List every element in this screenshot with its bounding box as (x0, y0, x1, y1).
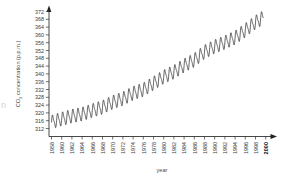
x-axis-title: year (157, 167, 168, 173)
y-tick-label: 332 (35, 87, 44, 93)
y-tick-label: 360 (35, 32, 44, 38)
y-tick-label: 340 (35, 71, 44, 77)
x-tick-label: 1966 (90, 142, 96, 154)
y-tick-label: 316 (35, 118, 44, 124)
y-tick-label: 344 (35, 63, 44, 69)
edge-text-artifact: n (1, 100, 6, 110)
x-tick-label: 1958 (49, 142, 55, 154)
y-tick-label: 324 (35, 102, 44, 108)
y-tick-label: 352 (35, 48, 44, 54)
chart-figure: n (0, 0, 284, 177)
y-tick-label: 312 (35, 126, 44, 132)
x-tick-label: 1998 (253, 142, 259, 154)
x-tick-label: 1974 (130, 142, 136, 154)
x-tick-label: 1968 (100, 142, 106, 154)
y-tick-label: 364 (35, 24, 44, 30)
x-tick-label: 1960 (59, 142, 65, 154)
y-tick-label: 328 (35, 94, 44, 100)
x-tick-label: 1980 (161, 142, 167, 154)
x-tick-label: 1970 (110, 142, 116, 154)
x-tick-label: 1978 (151, 142, 157, 154)
x-tick-label: 1976 (141, 142, 147, 154)
x-tick-label: 1986 (192, 142, 198, 154)
y-axis-title-rest: concentration (p.p.m.) (15, 41, 21, 97)
y-tick-label: 320 (35, 110, 44, 116)
y-tick-label: 372 (35, 9, 44, 15)
y-tick-label: 356 (35, 40, 44, 46)
x-tick-label-2000: 2000 (263, 142, 269, 154)
x-tick-label: 1992 (222, 142, 228, 154)
x-tick-label: 1990 (212, 142, 218, 154)
y-axis-tick-labels: 312 316 320 324 328 332 336 340 344 348 … (35, 9, 44, 132)
x-tick-label: 1982 (171, 142, 177, 154)
x-tick-label: 1964 (79, 142, 85, 154)
co2-keeling-curve-plot: n (0, 0, 284, 177)
y-tick-label: 336 (35, 79, 44, 85)
x-tick-label: 1972 (120, 142, 126, 154)
y-tick-label: 368 (35, 16, 44, 22)
x-tick-label: 1996 (243, 142, 249, 154)
x-tick-label: 1984 (181, 142, 187, 154)
x-tick-label: 1988 (202, 142, 208, 154)
x-tick-label: 1962 (69, 142, 75, 154)
x-tick-label: 1994 (232, 142, 238, 154)
y-tick-label: 348 (35, 55, 44, 61)
